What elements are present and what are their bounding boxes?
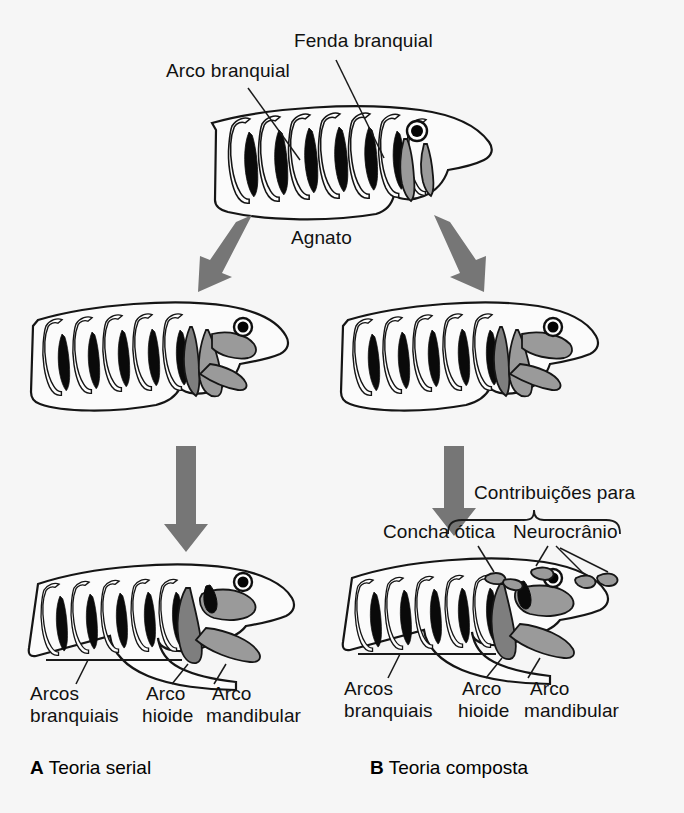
label-agnathan: Agnato [291,227,352,249]
label-hyoid-arch-a-line1: Arco [146,683,185,705]
label-gill-arch: Arco branquial [166,60,290,82]
serial-intermediate-fish [31,302,288,410]
label-mandibular-arch-a-line1: Arco [212,683,251,705]
label-mandibular-arch-a-line2: mandibular [206,705,301,727]
panel-letter-b: B [370,757,384,778]
figure-canvas: Fenda branquial Arco branquial Agnato Ar… [0,0,684,813]
label-branchial-arches-a-line2: branquiais [30,705,119,727]
label-contributions-to: Contribuições para [474,482,635,504]
label-hyoid-arch-b-line1: Arco [462,678,501,700]
arrow-serial-down [164,446,208,552]
panel-title-a: Teoria serial [49,757,151,778]
label-mandibular-arch-b-line1: Arco [530,678,569,700]
composite-intermediate-fish [341,302,598,410]
diagram-illustration [0,0,684,813]
label-otic-capsule: Concha ótica [383,521,495,543]
label-neurocranium: Neurocrânio [513,521,618,543]
label-hyoid-arch-b-line2: hioide [458,700,509,722]
label-branchial-arches-a-line1: Arcos [30,683,79,705]
label-hyoid-arch-a-line2: hioide [142,705,193,727]
agnathan-fish [212,106,492,219]
label-gill-slit: Fenda branquial [294,30,433,52]
label-branchial-arches-b-line1: Arcos [344,678,393,700]
label-mandibular-arch-b-line2: mandibular [524,700,619,722]
label-branchial-arches-b-line2: branquiais [344,700,433,722]
panel-caption-b: B Teoria composta [370,757,528,779]
panel-caption-a: A Teoria serial [30,757,151,779]
panel-letter-a: A [30,757,44,778]
arrow-to-composite [434,215,486,292]
panel-title-b: Teoria composta [389,757,528,778]
serial-result-fish [29,565,294,690]
arrow-to-serial [198,215,252,292]
